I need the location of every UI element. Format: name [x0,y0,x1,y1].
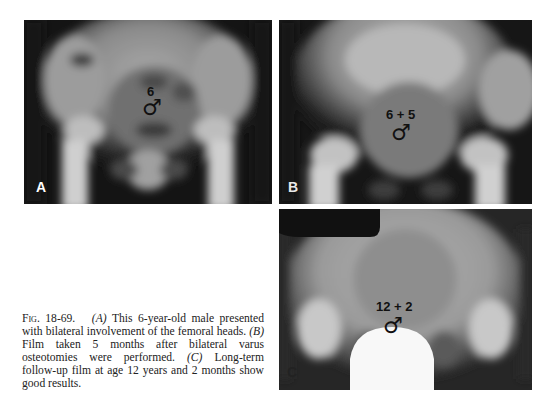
shielding-block [279,209,380,237]
panel-letter-c: C [287,365,297,379]
caption-ref-b: (B) [249,325,264,338]
xray-panel-b: 6 + 5 ♂ B [279,20,532,204]
panel-letter-a: A [36,180,46,194]
caption-ref-a: (A) [92,312,107,325]
male-symbol-icon: ♂ [391,122,411,144]
figure-caption: Fig. 18-69. (A) This 6-year-old male pre… [22,312,264,391]
caption-ref-c: (C) [187,351,202,364]
panel-letter-b: B [288,180,298,194]
figure-label: Fig. 18-69. [22,312,75,325]
male-symbol-icon: ♂ [142,97,162,119]
male-symbol-icon: ♂ [383,315,403,337]
xray-panel-c: 12 + 2 ♂ C [279,209,532,390]
xray-panel-a: 6 ♂ A [24,20,272,204]
age-label-c: 12 + 2 [376,300,413,313]
